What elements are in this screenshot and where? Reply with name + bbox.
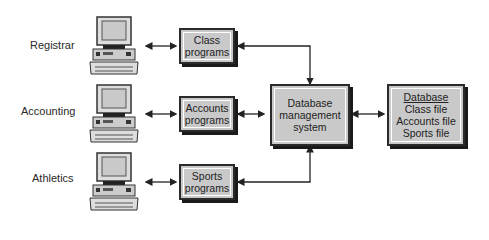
- dbms-line3: system: [293, 121, 326, 133]
- accounts-programs-box: Accounts programs: [179, 96, 235, 132]
- database-box: Database Class file Accounts file Sports…: [387, 84, 465, 146]
- database-title: Database: [404, 91, 449, 103]
- dbms-line2: management: [279, 109, 340, 121]
- database-file-class: Class file: [405, 103, 448, 115]
- sports-programs-line2: programs: [185, 182, 229, 194]
- dbms-line1: Database: [288, 97, 333, 109]
- accounts-programs-line2: programs: [185, 114, 229, 126]
- class-programs-line1: Class: [194, 34, 220, 46]
- class-programs-line2: programs: [185, 46, 229, 58]
- sports-programs-box: Sports programs: [179, 164, 235, 200]
- dbms-box: Database management system: [270, 84, 350, 146]
- sports-programs-line1: Sports: [192, 170, 222, 182]
- accounts-programs-line1: Accounts: [185, 102, 228, 114]
- database-file-accounts: Accounts file: [396, 115, 456, 127]
- class-programs-box: Class programs: [179, 28, 235, 64]
- database-file-sports: Sports file: [403, 127, 450, 139]
